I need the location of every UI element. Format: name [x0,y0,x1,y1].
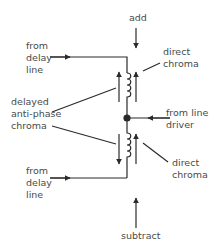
label-direct-chroma-bottom: direct chroma [172,157,208,181]
top-coil [127,73,131,118]
label-from-delay-line-bottom: from delay line [26,165,52,201]
label-from-line-driver: from line driver [166,107,208,131]
label-direct-chroma-top: direct chroma [163,46,199,70]
label-subtract: subtract [121,230,160,242]
label-from-delay-line-top: from delay line [26,40,52,76]
top-delay-wire [50,57,127,73]
label-delayed-antiphase-chroma: delayed anti-phase chroma [11,96,61,132]
bottom-coil [127,118,131,178]
label-add: add [129,12,147,24]
